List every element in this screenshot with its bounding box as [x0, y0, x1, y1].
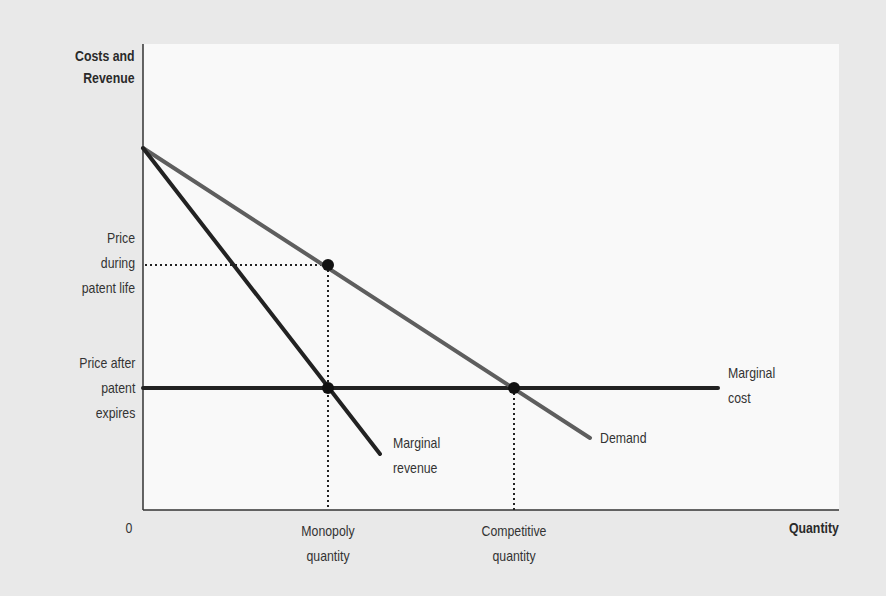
- x-tick-monopoly-quantity: Monopoly quantity: [279, 518, 377, 568]
- y-axis-title-line: Costs and: [76, 45, 135, 67]
- competitive-point: [508, 382, 520, 394]
- y-axis-title-line: Revenue: [76, 67, 135, 89]
- x-axis-title: Quantity: [789, 518, 839, 538]
- marginal-revenue-label: Marginal revenue: [393, 430, 440, 480]
- y-axis-title-lines: Costs and Revenue: [76, 45, 135, 89]
- origin-label: 0: [123, 518, 134, 538]
- y-tick-price-during-patent: Price during patent life: [82, 225, 135, 300]
- demand-label: Demand: [600, 428, 646, 448]
- marginal-cost-label: Marginal cost: [728, 360, 775, 410]
- demand-line: [143, 148, 590, 438]
- monopoly-mc-point: [322, 382, 334, 394]
- monopoly-price-point: [322, 259, 334, 271]
- x-tick-competitive-quantity: Competitive quantity: [465, 518, 563, 568]
- marginal-revenue-line: [143, 148, 380, 454]
- y-tick-price-after-patent: Price after patent expires: [79, 350, 135, 425]
